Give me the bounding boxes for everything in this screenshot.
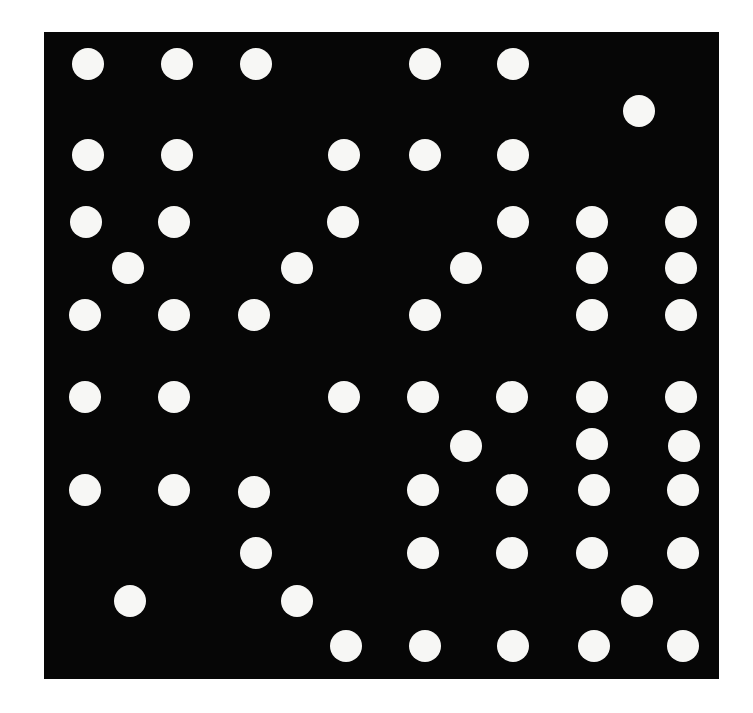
- white-dot: [578, 630, 610, 662]
- white-dot: [576, 381, 608, 413]
- white-dot: [114, 585, 146, 617]
- white-dot: [665, 252, 697, 284]
- white-dot: [576, 299, 608, 331]
- white-dot: [576, 206, 608, 238]
- white-dot: [407, 474, 439, 506]
- white-dot: [161, 48, 193, 80]
- white-dot: [409, 299, 441, 331]
- white-dot: [158, 206, 190, 238]
- white-dot: [450, 430, 482, 462]
- white-dot: [497, 206, 529, 238]
- white-dot: [72, 139, 104, 171]
- white-dot: [409, 48, 441, 80]
- white-dot: [496, 537, 528, 569]
- white-dot: [330, 630, 362, 662]
- white-dot: [240, 48, 272, 80]
- white-dot: [497, 48, 529, 80]
- white-dot: [328, 381, 360, 413]
- white-dot: [70, 206, 102, 238]
- white-dot: [667, 474, 699, 506]
- white-dot: [240, 537, 272, 569]
- white-dot: [576, 252, 608, 284]
- white-dot: [158, 474, 190, 506]
- white-dot: [665, 299, 697, 331]
- white-dot: [409, 139, 441, 171]
- white-dot: [161, 139, 193, 171]
- white-dot: [665, 206, 697, 238]
- white-dot: [578, 474, 610, 506]
- white-dot: [576, 428, 608, 460]
- white-dot: [158, 381, 190, 413]
- white-dot: [281, 252, 313, 284]
- white-dot: [576, 537, 608, 569]
- white-dot: [667, 537, 699, 569]
- white-dot: [69, 299, 101, 331]
- white-dot: [667, 630, 699, 662]
- white-dot: [409, 630, 441, 662]
- white-dot: [450, 252, 482, 284]
- white-dot: [69, 381, 101, 413]
- white-dot: [407, 381, 439, 413]
- white-dot: [497, 630, 529, 662]
- white-dot: [281, 585, 313, 617]
- white-dot: [328, 139, 360, 171]
- white-dot: [112, 252, 144, 284]
- white-dot: [327, 206, 359, 238]
- dot-pattern-board: [44, 32, 719, 679]
- white-dot: [497, 139, 529, 171]
- white-dot: [238, 299, 270, 331]
- white-dot: [407, 537, 439, 569]
- white-dot: [665, 381, 697, 413]
- white-dot: [623, 95, 655, 127]
- white-dot: [158, 299, 190, 331]
- white-dot: [668, 430, 700, 462]
- white-dot: [72, 48, 104, 80]
- white-dot: [496, 474, 528, 506]
- white-dot: [621, 585, 653, 617]
- white-dot: [496, 381, 528, 413]
- white-dot: [69, 474, 101, 506]
- white-dot: [238, 476, 270, 508]
